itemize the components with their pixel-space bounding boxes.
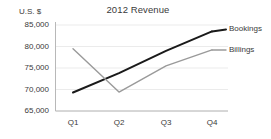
x-tick-label: Q4 bbox=[197, 119, 227, 127]
series-label-billings: Billings bbox=[229, 46, 254, 54]
x-tick-label: Q1 bbox=[58, 119, 88, 127]
x-tick-label: Q3 bbox=[151, 119, 181, 127]
revenue-line-chart: 2012 Revenue U.S. $ 65,00070,00075,00080… bbox=[0, 0, 271, 139]
series-label-bookings: Bookings bbox=[229, 25, 262, 33]
x-axis-tick-labels: Q1Q2Q3Q4 bbox=[0, 0, 271, 139]
x-tick-label: Q2 bbox=[104, 119, 134, 127]
